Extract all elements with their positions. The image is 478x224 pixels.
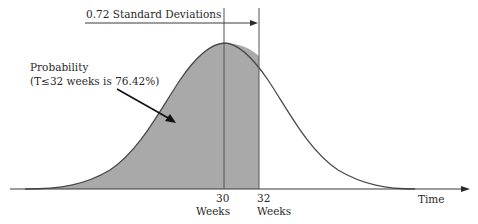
normal-distribution-diagram: 0.72 Standard Deviations Probability (T≤… [0,0,478,224]
time-axis-label: Time [418,193,445,205]
probability-value-label: (T≤32 weeks is 76.42%) [30,75,159,87]
tick-32-unit: Weeks [257,205,291,217]
tick-30-value: 30 [216,192,229,204]
std-dev-arrowhead-icon [250,20,258,26]
probability-label: Probability [30,61,88,73]
probability-pointer-line [117,89,170,119]
axis-arrowhead-icon [461,186,470,192]
tick-30-unit: Weeks [196,205,230,217]
tick-32-value: 32 [257,192,270,204]
std-dev-label: 0.72 Standard Deviations [86,8,221,20]
